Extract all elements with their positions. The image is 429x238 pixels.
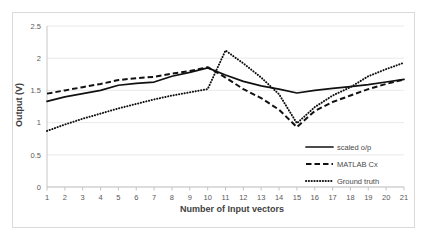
x-tick-label: 1 (45, 193, 49, 202)
y-tick-label: 2 (37, 54, 41, 63)
series-line-matlab-cx (47, 67, 404, 127)
line-chart: 00.511.522.5 123456789101112131415161718… (0, 0, 429, 238)
y-axis-tick-labels: 00.511.522.5 (31, 22, 41, 192)
x-tick-label: 3 (81, 193, 85, 202)
y-tick-label: 2.5 (31, 22, 41, 31)
x-tick-label: 17 (328, 193, 336, 202)
x-tick-label: 14 (275, 193, 283, 202)
legend-label: MATLAB Cx (337, 160, 378, 169)
x-tick-label: 18 (346, 193, 354, 202)
legend-label: Ground truth (337, 177, 379, 186)
x-tick-label: 9 (188, 193, 192, 202)
x-tick-label: 6 (134, 193, 138, 202)
y-tick-label: 1 (37, 118, 41, 127)
x-tick-label: 21 (400, 193, 408, 202)
x-tick-label: 19 (364, 193, 372, 202)
x-tick-label: 5 (116, 193, 120, 202)
y-tick-label: 1.5 (31, 86, 41, 95)
x-tick-label: 20 (382, 193, 390, 202)
x-tick-label: 11 (222, 193, 230, 202)
x-axis-tick-labels: 123456789101112131415161718192021 (45, 193, 408, 202)
y-tick-label: 0 (37, 183, 41, 192)
y-axis-title: Output (V) (14, 83, 24, 127)
x-tick-label: 13 (257, 193, 265, 202)
x-tick-label: 8 (170, 193, 174, 202)
y-tick-label: 0.5 (31, 151, 41, 160)
x-tick-label: 12 (239, 193, 247, 202)
x-tick-label: 7 (152, 193, 156, 202)
legend-label: scaled o/p (337, 143, 371, 152)
chart-legend: scaled o/pMATLAB CxGround truth (306, 143, 379, 186)
x-tick-label: 15 (293, 193, 301, 202)
x-tick-label: 2 (63, 193, 67, 202)
x-tick-label: 16 (311, 193, 319, 202)
x-tick-label: 10 (203, 193, 211, 202)
x-axis-title: Number of Input vectors (180, 204, 284, 214)
x-tick-label: 4 (98, 193, 102, 202)
